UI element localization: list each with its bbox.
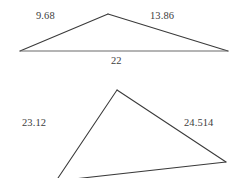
triangle-2-left-side-label: 23.12 xyxy=(22,118,46,129)
triangle-2-left-edge xyxy=(56,90,117,178)
triangle-1-left-side-label: 9.68 xyxy=(36,11,55,22)
figure-canvas: 9.68 13.86 22 23.12 24.514 xyxy=(0,0,244,178)
triangle-1-base-label: 22 xyxy=(111,56,122,67)
triangle-2-right-side-label: 24.514 xyxy=(184,118,213,129)
triangle-1-left-edge xyxy=(20,14,108,51)
triangle-1-right-side-label: 13.86 xyxy=(150,11,174,22)
triangle-2 xyxy=(56,90,226,178)
triangle-2-base-edge xyxy=(56,162,226,178)
triangles-figure xyxy=(0,0,244,178)
